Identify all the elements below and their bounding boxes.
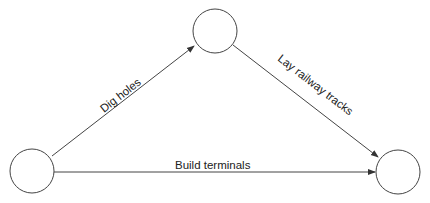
network-diagram: Dig holes Lay railway tracks Build termi… — [0, 0, 430, 203]
label-dig-holes: Dig holes — [98, 76, 143, 115]
node-middle — [193, 9, 237, 53]
edge-lay-railway-tracks — [233, 45, 378, 157]
node-end — [376, 150, 420, 194]
diagram-canvas: Dig holes Lay railway tracks Build termi… — [0, 0, 430, 203]
edge-dig-holes — [52, 46, 194, 156]
label-build-terminals: Build terminals — [175, 159, 251, 171]
node-start — [10, 149, 54, 193]
label-lay-railway-tracks: Lay railway tracks — [276, 52, 356, 118]
